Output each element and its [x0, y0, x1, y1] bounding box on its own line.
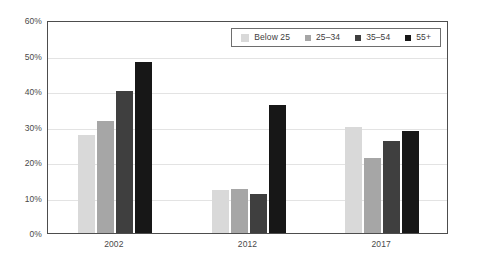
legend-item: 55+	[405, 33, 431, 42]
x-axis: 200220122017	[47, 240, 448, 256]
y-axis-tick-label: 20%	[0, 159, 42, 168]
x-axis-tick-label: 2002	[104, 240, 123, 249]
y-axis-tick-label: 50%	[0, 52, 42, 61]
legend-swatch-icon	[405, 35, 411, 41]
bar	[364, 158, 381, 233]
y-axis: 0%10%20%30%40%50%60%	[0, 21, 42, 234]
bar-chart: 0%10%20%30%40%50%60% Below 2525–3435–545…	[0, 0, 481, 263]
y-axis-tick-label: 40%	[0, 88, 42, 97]
bar	[383, 141, 400, 233]
plot-area: Below 2525–3435–5455+	[47, 21, 448, 234]
legend-swatch-icon	[305, 35, 311, 41]
legend-label: 55+	[416, 33, 431, 42]
y-axis-tick-label: 0%	[0, 230, 42, 239]
x-axis-tick-label: 2012	[238, 240, 257, 249]
x-axis-tick-label: 2017	[372, 240, 391, 249]
bar-group-2017	[48, 22, 449, 233]
chart-legend: Below 2525–3435–5455+	[231, 28, 441, 47]
legend-item: Below 25	[241, 33, 290, 42]
y-axis-tick-label: 30%	[0, 123, 42, 132]
bar	[402, 131, 419, 233]
legend-label: 25–34	[316, 33, 340, 42]
legend-label: Below 25	[254, 33, 290, 42]
legend-swatch-icon	[241, 34, 249, 42]
legend-label: 35–54	[366, 33, 390, 42]
y-axis-tick-label: 60%	[0, 17, 42, 26]
legend-item: 35–54	[355, 33, 390, 42]
legend-item: 25–34	[305, 33, 340, 42]
bar	[345, 127, 362, 234]
y-axis-tick-label: 10%	[0, 194, 42, 203]
legend-swatch-icon	[355, 35, 361, 41]
